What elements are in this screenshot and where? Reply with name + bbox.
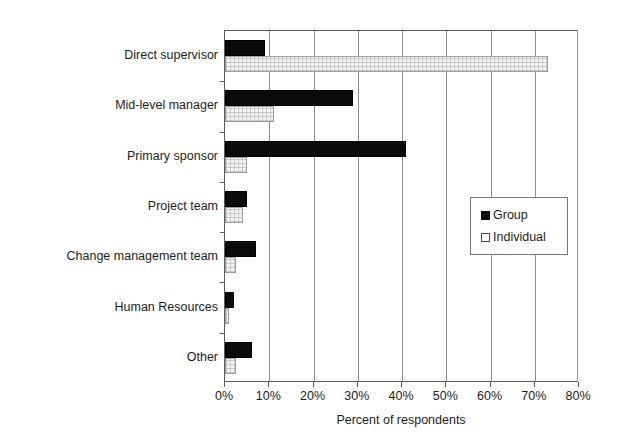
bar-chart: Direct supervisorMid-level managerPrimar… bbox=[0, 0, 631, 447]
bar-individual bbox=[225, 106, 274, 122]
x-axis-tick bbox=[578, 382, 579, 387]
y-axis-tick bbox=[220, 81, 225, 82]
y-axis-tick bbox=[220, 232, 225, 233]
y-axis-tick bbox=[220, 132, 225, 133]
bar-group bbox=[225, 292, 234, 308]
gridline bbox=[402, 31, 403, 381]
bar-group bbox=[225, 90, 353, 106]
y-axis-category-label: Other bbox=[187, 350, 218, 364]
bar-individual bbox=[225, 257, 236, 273]
x-axis-tick bbox=[490, 382, 491, 387]
y-axis-category-label: Direct supervisor bbox=[124, 48, 218, 62]
legend-entry-individual: Individual bbox=[481, 226, 567, 248]
x-axis-tick bbox=[445, 382, 446, 387]
legend-label-group: Group bbox=[493, 208, 528, 222]
bar-group bbox=[225, 342, 252, 358]
bar-individual bbox=[225, 157, 247, 173]
gridline bbox=[358, 31, 359, 381]
y-axis-category-label: Change management team bbox=[67, 249, 218, 263]
y-axis-category-label: Project team bbox=[148, 199, 218, 213]
bar-individual bbox=[225, 56, 548, 72]
chart-legend: Group Individual bbox=[470, 197, 568, 255]
x-axis-tick-label: 80% bbox=[548, 389, 608, 403]
y-axis-tick bbox=[220, 282, 225, 283]
x-axis-tick bbox=[401, 382, 402, 387]
bar-group bbox=[225, 191, 247, 207]
x-axis-tick bbox=[268, 382, 269, 387]
y-axis-category-label: Human Resources bbox=[114, 300, 218, 314]
y-axis-category-label: Mid-level manager bbox=[115, 98, 218, 112]
x-axis-tick bbox=[357, 382, 358, 387]
gridline bbox=[314, 31, 315, 381]
x-axis-tick bbox=[224, 382, 225, 387]
legend-entry-group: Group bbox=[481, 204, 567, 226]
legend-swatch-group-icon bbox=[481, 211, 490, 220]
legend-label-individual: Individual bbox=[493, 230, 546, 244]
bar-group bbox=[225, 40, 265, 56]
x-axis-tick bbox=[313, 382, 314, 387]
gridline bbox=[269, 31, 270, 381]
bar-group bbox=[225, 141, 406, 157]
x-axis-tick bbox=[534, 382, 535, 387]
y-axis-tick bbox=[220, 182, 225, 183]
legend-swatch-individual-icon bbox=[481, 233, 490, 242]
bar-group bbox=[225, 241, 256, 257]
y-axis-category-label: Primary sponsor bbox=[127, 149, 218, 163]
y-axis-tick bbox=[220, 333, 225, 334]
bar-individual bbox=[225, 308, 229, 324]
gridline bbox=[446, 31, 447, 381]
bar-individual bbox=[225, 358, 236, 374]
x-axis-title: Percent of respondents bbox=[224, 413, 578, 427]
bar-individual bbox=[225, 207, 243, 223]
